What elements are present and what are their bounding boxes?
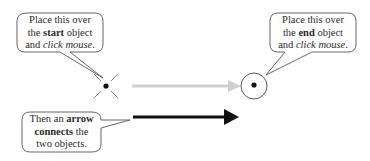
start-callout-line1: Place this over (29, 14, 91, 25)
end-callout-line3-pre: and (278, 39, 296, 50)
start-callout-line3-post: . (92, 39, 95, 50)
circle-dot-cursor-icon (241, 73, 267, 99)
start-callout-line2-pre: the (28, 27, 43, 38)
start-callout-line3-pre: and (25, 39, 43, 50)
arrow-keyword: arrow (66, 113, 93, 124)
end-keyword: end (298, 27, 314, 38)
end-click-mouse: click mouse (296, 39, 345, 50)
start-click-mouse: click mouse (43, 39, 92, 50)
result-callout-line1-pre: Then an (30, 113, 67, 124)
start-callout-text: Place this over the start object and cli… (17, 14, 103, 52)
result-callout-line2-post: the (73, 126, 88, 137)
end-callout-line1: Place this over (282, 14, 344, 25)
preview-arrow (132, 80, 241, 92)
crosshair-x-cursor-icon (94, 74, 118, 98)
connects-keyword: connects (35, 126, 74, 137)
connector-arrow (133, 109, 239, 125)
end-callout-text: Place this over the end object and click… (270, 14, 356, 52)
end-callout-line2-pre: the (283, 27, 298, 38)
end-callout-line3-post: . (345, 39, 348, 50)
start-callout-line2-post: object (64, 27, 92, 38)
result-callout-text: Then an arrow connects the two objects. (22, 113, 101, 151)
end-callout-line2-post: object (315, 27, 343, 38)
result-callout-line3: two objects. (36, 138, 87, 149)
start-keyword: start (43, 27, 64, 38)
